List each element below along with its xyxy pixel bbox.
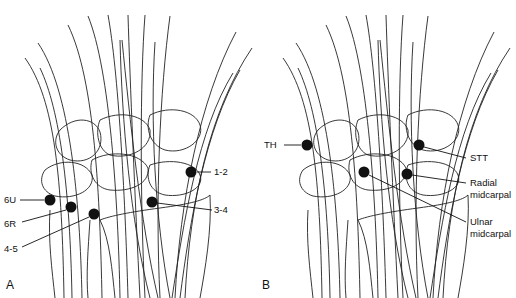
portal-label-6u: 6U [4,194,16,205]
portal-label-radial-midcarpal-2: midcarpal [470,189,511,200]
panel-letter-a: A [6,278,14,292]
portal-label-3-4: 3-4 [214,204,228,215]
wrist-illustration-dorsal-midcarpal [258,0,516,298]
portal-label-ulnar-midcarpal-2: midcarpal [470,228,511,239]
wrist-illustration-dorsal-radiocarpal [0,0,258,298]
portal-label-th: TH [264,139,277,150]
portal-label-radial-midcarpal-1: Radial [470,177,497,188]
portal-label-4-5: 4-5 [4,243,18,254]
panel-letter-b: B [262,278,270,292]
panel-b: TH STT Radial midcarpal Ulnar midcarpal … [258,0,516,298]
portal-label-ulnar-midcarpal-1: Ulnar [470,216,493,227]
panel-a: 1-2 3-4 6U 6R 4-5 A [0,0,258,298]
portal-label-1-2: 1-2 [214,166,228,177]
portal-label-6r: 6R [4,218,16,229]
portal-label-stt: STT [470,152,488,163]
